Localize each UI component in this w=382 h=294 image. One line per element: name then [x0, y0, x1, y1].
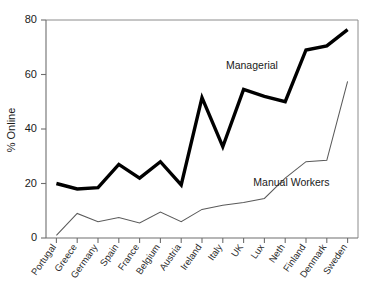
- y-axis-title: % Online: [5, 108, 17, 153]
- y-tick-label: 40: [25, 122, 37, 134]
- y-tick-label: 0: [31, 231, 37, 243]
- annotation-manual-workers: Manual Workers: [253, 176, 329, 188]
- series-line-managerial: [56, 30, 347, 189]
- x-axis-labels: PortugalGreeceGermanySpainFranceBelgiumA…: [29, 241, 350, 280]
- data-series-group: [56, 30, 347, 236]
- line-chart: 020406080 PortugalGreeceGermanySpainFran…: [0, 0, 382, 294]
- x-tick-label-italy: Italy: [205, 242, 224, 263]
- plot-frame: [46, 20, 358, 238]
- x-tick-label-lux: Lux: [248, 242, 266, 261]
- chart-container: 020406080 PortugalGreeceGermanySpainFran…: [0, 0, 382, 294]
- x-tick-label-ireland: Ireland: [178, 242, 204, 272]
- series-annotations: ManagerialManual Workers: [226, 59, 330, 188]
- y-tick-label: 20: [25, 177, 37, 189]
- plot-border: [46, 20, 358, 238]
- x-axis-ticks: [56, 238, 347, 243]
- y-tick-label: 80: [25, 13, 37, 25]
- annotation-managerial: Managerial: [226, 59, 278, 71]
- y-axis-ticks: 020406080: [25, 13, 46, 243]
- x-tick-label-neth: Neth: [266, 242, 287, 265]
- y-tick-label: 60: [25, 68, 37, 80]
- x-tick-label-portugal: Portugal: [29, 242, 58, 277]
- x-tick-label-uk: UK: [229, 241, 246, 259]
